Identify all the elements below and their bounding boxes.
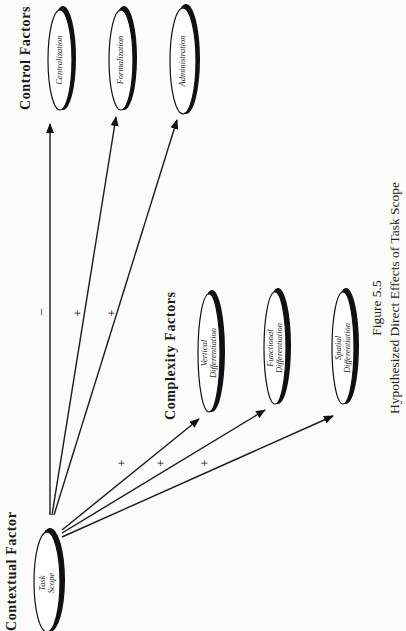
node-centralization: Centralization	[48, 6, 76, 110]
figure-number: Figure 5.5	[369, 280, 384, 336]
sign-spatial: +	[198, 459, 212, 466]
node-label-line2: Differentiation	[342, 323, 352, 374]
group-header-complexity: Complexity Factors	[163, 291, 178, 420]
group-header-control: Control Factors	[18, 6, 33, 110]
node-label: Administration	[177, 35, 187, 87]
node-spatial-differentiation: Spatial Differentiation	[332, 288, 359, 404]
sign-formalization: +	[71, 309, 85, 316]
edges	[50, 117, 333, 537]
node-task-scope: Task Scope	[34, 528, 65, 631]
path-diagram: – + + + + + Contextual Factor Complexity…	[0, 0, 406, 631]
edge-task-to-functional	[62, 410, 265, 533]
figure-title: Hypothesized Direct Effects of Task Scop…	[387, 182, 402, 414]
node-label-line2: Differentiation	[208, 328, 218, 379]
group-header-contextual: Contextual Factor	[4, 512, 19, 631]
node-label: Formalization	[115, 36, 125, 86]
sign-administration: +	[105, 309, 119, 316]
node-label: Centralization	[54, 35, 64, 84]
node-functional-differentiation: Functional Differentiation	[264, 288, 291, 404]
edge-task-to-vertical	[62, 419, 199, 530]
sign-vertical: +	[115, 459, 129, 466]
node-formalization: Formalization	[109, 6, 137, 110]
node-administration: Administration	[170, 4, 200, 114]
edge-task-to-administration	[54, 120, 177, 515]
node-label-line2: Differentiation	[274, 323, 284, 374]
node-label-line2: Scope	[46, 573, 56, 594]
edge-signs: – + + + + +	[33, 308, 212, 466]
node-vertical-differentiation: Vertical Differentiation	[198, 290, 225, 412]
sign-functional: +	[154, 459, 168, 466]
edge-task-to-spatial	[62, 416, 333, 537]
sign-centralization: –	[33, 308, 47, 316]
